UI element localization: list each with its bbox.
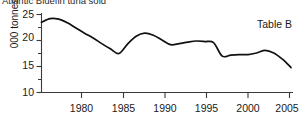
x-tick-label-1985: 1985 xyxy=(112,102,136,114)
y-tick-label-25: 25 xyxy=(22,8,34,20)
x-tick-label-1980: 1980 xyxy=(70,102,94,114)
x-tick-label-2005: 2005 xyxy=(275,102,299,114)
y-tick-label-20: 20 xyxy=(22,31,34,43)
chart-figure: Atlantic Bluefin tuna sold Table B 000 t… xyxy=(0,0,300,118)
y-tick-label-10: 10 xyxy=(22,86,34,98)
data-series-line xyxy=(42,18,292,67)
x-tick-label-1995: 1995 xyxy=(195,102,219,114)
x-tick-label-2000: 2000 xyxy=(236,102,260,114)
x-major-ticks xyxy=(82,93,290,99)
plot-area: 25 20 15 10 1980 1985 xyxy=(0,0,300,118)
x-tick-label-1990: 1990 xyxy=(153,102,177,114)
y-tick-label-15: 15 xyxy=(22,59,34,71)
